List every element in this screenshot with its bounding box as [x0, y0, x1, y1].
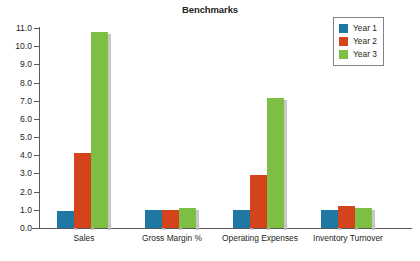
y-axis-label: 10.0	[2, 42, 32, 51]
bar-fill	[267, 98, 284, 228]
legend-item[interactable]: Year 1	[339, 22, 377, 35]
y-axis-tick	[34, 64, 39, 65]
y-axis-label-wrap: 10.0	[0, 46, 32, 47]
bar-shadow	[108, 34, 112, 230]
bar[interactable]	[321, 210, 338, 228]
y-axis-tick	[34, 173, 39, 174]
y-axis-label: 11.0	[2, 24, 32, 33]
bar[interactable]	[145, 210, 162, 228]
y-axis-label-wrap: 8.0	[0, 83, 32, 84]
bar[interactable]	[74, 153, 91, 228]
y-axis-label-wrap: 7.0	[0, 101, 32, 102]
legend-label: Year 1	[353, 24, 377, 32]
bar[interactable]	[57, 211, 74, 228]
y-axis-label: 4.0	[2, 151, 32, 160]
y-axis-tick	[34, 101, 39, 102]
bar[interactable]	[162, 210, 179, 228]
y-axis-label-wrap: 11.0	[0, 28, 32, 29]
y-axis-label: 6.0	[2, 115, 32, 124]
bar-fill	[91, 32, 108, 228]
bar-group	[233, 28, 284, 228]
bar-chart: Benchmarks 0.01.02.03.04.05.06.07.08.09.…	[0, 0, 420, 261]
legend-label: Year 3	[353, 50, 377, 58]
bar-fill	[179, 208, 196, 228]
y-axis-label: 1.0	[2, 206, 32, 215]
y-axis-tick	[34, 137, 39, 138]
bar-fill	[162, 210, 179, 228]
bar-shadow	[372, 210, 376, 230]
y-axis-tick	[34, 46, 39, 47]
y-axis-tick	[34, 155, 39, 156]
y-axis-label-wrap: 3.0	[0, 173, 32, 174]
legend-swatch	[339, 37, 348, 46]
legend-label: Year 2	[353, 37, 377, 45]
legend-item[interactable]: Year 3	[339, 48, 377, 61]
bar[interactable]	[250, 175, 267, 228]
y-axis-tick	[34, 210, 39, 211]
bar-fill	[145, 210, 162, 228]
bar[interactable]	[179, 208, 196, 228]
y-axis-label: 9.0	[2, 60, 32, 69]
bar-fill	[250, 175, 267, 228]
bar[interactable]	[338, 206, 355, 228]
bar-fill	[57, 211, 74, 228]
bar[interactable]	[355, 208, 372, 228]
chart-title: Benchmarks	[0, 4, 420, 15]
y-axis-label-wrap: 6.0	[0, 119, 32, 120]
bar[interactable]	[233, 210, 250, 228]
y-axis-label-wrap: 4.0	[0, 155, 32, 156]
bar-shadow	[284, 100, 288, 230]
bar-shadow	[196, 210, 200, 230]
y-axis-label-wrap: 0.0	[0, 228, 32, 229]
y-axis-label: 2.0	[2, 188, 32, 197]
bar-fill	[74, 153, 91, 228]
y-axis-tick	[34, 83, 39, 84]
y-axis-tick	[34, 119, 39, 120]
bar-group	[57, 28, 108, 228]
y-axis-label-wrap: 5.0	[0, 137, 32, 138]
y-axis-label-wrap: 9.0	[0, 64, 32, 65]
y-axis-label: 7.0	[2, 97, 32, 106]
bar-fill	[338, 206, 355, 228]
y-axis-label: 0.0	[2, 224, 32, 233]
y-axis-label-wrap: 2.0	[0, 192, 32, 193]
bar-fill	[233, 210, 250, 228]
y-axis-label: 8.0	[2, 79, 32, 88]
y-axis-label: 3.0	[2, 169, 32, 178]
x-axis-label: Inventory Turnover	[294, 233, 402, 243]
bar[interactable]	[267, 98, 284, 228]
bar-fill	[355, 208, 372, 228]
legend-item[interactable]: Year 2	[339, 35, 377, 48]
y-axis-tick	[34, 228, 39, 229]
chart-legend: Year 1Year 2Year 3	[333, 17, 384, 66]
y-axis-tick	[34, 28, 39, 29]
legend-swatch	[339, 24, 348, 33]
bar-fill	[321, 210, 338, 228]
y-axis-label-wrap: 1.0	[0, 210, 32, 211]
bar[interactable]	[91, 32, 108, 228]
y-axis-label: 5.0	[2, 133, 32, 142]
legend-swatch	[339, 50, 348, 59]
bar-group	[145, 28, 196, 228]
y-axis-tick	[34, 192, 39, 193]
